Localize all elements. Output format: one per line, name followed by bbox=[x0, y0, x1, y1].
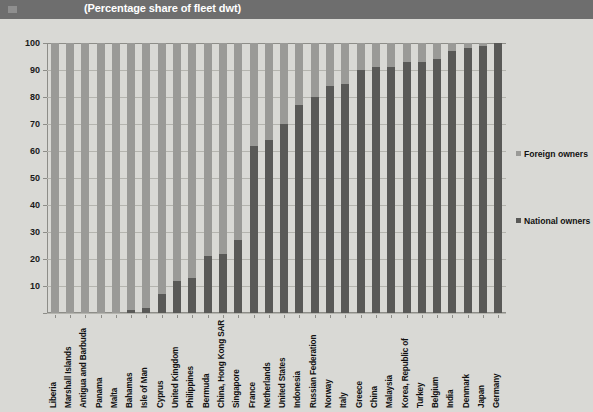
bar-column bbox=[433, 43, 441, 313]
bar-segment-foreign bbox=[127, 43, 135, 313]
x-tick-label: Japan bbox=[477, 385, 486, 408]
x-tick-label: Panama bbox=[95, 377, 104, 408]
bar-segment-national bbox=[280, 124, 288, 313]
bar-segment-national bbox=[265, 140, 273, 313]
y-tick-label: 20 bbox=[0, 254, 40, 264]
legend-swatch-foreign-icon bbox=[516, 151, 521, 156]
bar-column bbox=[311, 43, 319, 313]
bar-column bbox=[127, 43, 135, 313]
bar-column bbox=[250, 43, 258, 313]
legend-label-foreign: Foreign owners bbox=[524, 149, 588, 159]
x-tick-label: Marshall Islands bbox=[64, 347, 73, 408]
x-tick-label: Netherlands bbox=[263, 362, 272, 408]
bar-column bbox=[448, 43, 456, 313]
x-tick-label: Singapore bbox=[232, 369, 241, 408]
bar-column bbox=[387, 43, 395, 313]
x-tick-mark bbox=[422, 315, 423, 318]
x-tick-mark bbox=[361, 315, 362, 318]
x-tick-label: Russian Federation bbox=[309, 335, 318, 408]
x-tick-label: Norway bbox=[324, 379, 333, 408]
bar-column bbox=[97, 43, 105, 313]
bar-column bbox=[188, 43, 196, 313]
bar-segment-national bbox=[433, 59, 441, 313]
bar-segment-national bbox=[311, 97, 319, 313]
bar-segment-foreign bbox=[112, 43, 120, 313]
x-tick-mark bbox=[223, 315, 224, 318]
bar-column bbox=[112, 43, 120, 313]
bar-segment-national bbox=[188, 278, 196, 313]
x-tick-mark bbox=[162, 315, 163, 318]
x-tick-mark bbox=[376, 315, 377, 318]
x-tick-label: Korea, Republic of bbox=[401, 338, 410, 408]
bar-segment-national bbox=[295, 105, 303, 313]
bar-segment-foreign bbox=[66, 43, 74, 313]
bar-column bbox=[479, 43, 487, 313]
plot-area bbox=[47, 43, 506, 313]
x-tick-label: Greece bbox=[355, 381, 364, 408]
x-tick-mark bbox=[315, 315, 316, 318]
x-tick-mark bbox=[85, 315, 86, 318]
legend-item-foreign-owners: Foreign owners bbox=[516, 149, 588, 159]
bar-segment-foreign bbox=[97, 43, 105, 313]
x-tick-label: Bermuda bbox=[202, 374, 211, 408]
bar-segment-foreign bbox=[51, 43, 59, 313]
bar-segment-national bbox=[448, 51, 456, 313]
legend: Foreign owners National owners bbox=[516, 43, 592, 313]
x-tick-label: Denmark bbox=[462, 374, 471, 408]
bar-segment-national bbox=[464, 48, 472, 313]
y-tick-label: 80 bbox=[0, 92, 40, 102]
y-tick-label: 100 bbox=[0, 38, 40, 48]
x-tick-mark bbox=[345, 315, 346, 318]
x-tick-label: France bbox=[248, 382, 257, 408]
bar-segment-national bbox=[341, 84, 349, 314]
bar-column bbox=[326, 43, 334, 313]
x-tick-mark bbox=[116, 315, 117, 318]
bar-column bbox=[204, 43, 212, 313]
x-tick-mark bbox=[407, 315, 408, 318]
bar-segment-national bbox=[418, 62, 426, 313]
x-tick-label: Bahamas bbox=[125, 373, 134, 408]
x-tick-label: Philippines bbox=[186, 366, 195, 408]
legend-item-national-owners: National owners bbox=[516, 216, 590, 226]
bar-column bbox=[173, 43, 181, 313]
bar-segment-foreign bbox=[158, 43, 166, 313]
bar-column bbox=[494, 43, 502, 313]
x-tick-mark bbox=[238, 315, 239, 318]
bar-column bbox=[265, 43, 273, 313]
bar-column bbox=[81, 43, 89, 313]
x-tick-mark bbox=[254, 315, 255, 318]
y-tick-mark bbox=[43, 313, 47, 314]
bar-segment-national bbox=[479, 46, 487, 313]
x-tick-mark bbox=[131, 315, 132, 318]
x-tick-mark bbox=[468, 315, 469, 318]
gridline bbox=[47, 313, 506, 314]
x-tick-label: India bbox=[446, 390, 455, 408]
x-tick-mark bbox=[437, 315, 438, 318]
x-tick-label: Isle of Man bbox=[140, 367, 149, 408]
x-tick-mark bbox=[55, 315, 56, 318]
bar-segment-national bbox=[127, 310, 135, 313]
legend-swatch-national-icon bbox=[516, 218, 521, 223]
x-tick-label: United Kingdom bbox=[171, 347, 180, 408]
chart-canvas: 102030405060708090100 LiberiaMarshall Is… bbox=[0, 19, 593, 412]
bar-segment-national bbox=[357, 70, 365, 313]
chart-title: (Percentage share of fleet dwt) bbox=[84, 2, 241, 14]
x-tick-label: Italy bbox=[339, 392, 348, 408]
chart-banner: (Percentage share of fleet dwt) bbox=[0, 0, 593, 19]
bar-segment-foreign bbox=[81, 43, 89, 313]
x-tick-mark bbox=[146, 315, 147, 318]
x-tick-mark bbox=[299, 315, 300, 318]
x-tick-mark bbox=[391, 315, 392, 318]
bar-segment-foreign bbox=[188, 43, 196, 313]
bar-column bbox=[142, 43, 150, 313]
bar-series-group bbox=[47, 43, 506, 313]
bar-segment-national bbox=[142, 308, 150, 313]
bar-column bbox=[51, 43, 59, 313]
x-axis-tick-labels: LiberiaMarshall IslandsAntigua and Barbu… bbox=[47, 315, 506, 410]
x-tick-mark bbox=[498, 315, 499, 318]
bar-column bbox=[418, 43, 426, 313]
bar-segment-national bbox=[158, 294, 166, 313]
x-tick-mark bbox=[177, 315, 178, 318]
bar-segment-national bbox=[173, 281, 181, 313]
bar-segment-national bbox=[494, 43, 502, 313]
